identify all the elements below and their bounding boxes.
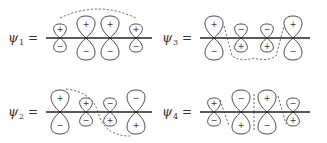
phase-sign: + bbox=[133, 121, 140, 130]
phase-sign: − bbox=[57, 121, 64, 130]
phase-sign: − bbox=[83, 116, 90, 125]
panel-psi3: ψ3=+−−+−++− bbox=[162, 16, 310, 60]
equals-sign: = bbox=[28, 105, 38, 119]
phase-sign: + bbox=[238, 42, 245, 51]
phase-sign: + bbox=[83, 20, 90, 29]
equals-sign: = bbox=[28, 31, 38, 45]
panel-psi2: ψ2=+−+−−+−+ bbox=[8, 89, 152, 136]
phase-sign: − bbox=[290, 99, 297, 108]
mo-diagram: ψ1=+−+−+−+−ψ3=+−−+−++−ψ2=+−+−−+−+ψ4=+−−+… bbox=[0, 0, 327, 143]
equals-sign: = bbox=[182, 31, 192, 45]
phase-sign: − bbox=[133, 42, 140, 51]
phase-sign: + bbox=[264, 42, 271, 51]
psi-subscript: 1 bbox=[19, 38, 24, 47]
panel-psi1: ψ1=+−+−+−+− bbox=[8, 9, 152, 60]
phase-sign: − bbox=[238, 94, 245, 103]
phase-sign: − bbox=[83, 47, 90, 56]
phase-sign: − bbox=[133, 94, 140, 103]
phase-sign: + bbox=[83, 99, 90, 108]
overlap-dashed-line bbox=[60, 9, 136, 18]
phase-sign: − bbox=[211, 47, 218, 56]
phase-sign: − bbox=[211, 116, 218, 125]
phase-sign: + bbox=[211, 20, 218, 29]
phase-sign: − bbox=[264, 121, 271, 130]
phase-sign: − bbox=[238, 25, 245, 34]
psi-label: ψ bbox=[8, 30, 19, 45]
phase-sign: + bbox=[57, 94, 64, 103]
phase-sign: + bbox=[133, 25, 140, 34]
psi-subscript: 3 bbox=[173, 38, 178, 47]
overlap-dashed-line bbox=[224, 26, 284, 60]
psi-label: ψ bbox=[8, 104, 19, 119]
phase-sign: + bbox=[57, 25, 64, 34]
phase-sign: + bbox=[290, 116, 297, 125]
phase-sign: − bbox=[57, 42, 64, 51]
phase-sign: + bbox=[264, 94, 271, 103]
phase-sign: + bbox=[107, 20, 114, 29]
psi-label: ψ bbox=[162, 104, 173, 119]
phase-sign: + bbox=[211, 99, 218, 108]
psi-subscript: 2 bbox=[19, 112, 24, 121]
psi-subscript: 4 bbox=[173, 112, 178, 121]
phase-sign: + bbox=[107, 116, 114, 125]
equals-sign: = bbox=[182, 105, 192, 119]
phase-sign: − bbox=[264, 25, 271, 34]
phase-sign: − bbox=[107, 47, 114, 56]
orbital-diagram-canvas: ψ1=+−+−+−+−ψ3=+−−+−++−ψ2=+−+−−+−+ψ4=+−−+… bbox=[0, 0, 327, 143]
psi-label: ψ bbox=[162, 30, 173, 45]
panel-psi4: ψ4=+−−++−−+ bbox=[162, 90, 310, 134]
phase-sign: − bbox=[107, 99, 114, 108]
phase-sign: − bbox=[290, 47, 297, 56]
phase-sign: + bbox=[238, 121, 245, 130]
phase-sign: + bbox=[290, 20, 297, 29]
